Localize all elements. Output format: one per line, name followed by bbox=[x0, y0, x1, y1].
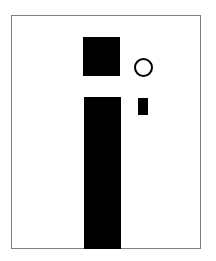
top-square bbox=[83, 37, 120, 76]
tall-bar bbox=[84, 97, 121, 249]
small-rect bbox=[138, 98, 148, 115]
hollow-circle bbox=[134, 58, 153, 77]
